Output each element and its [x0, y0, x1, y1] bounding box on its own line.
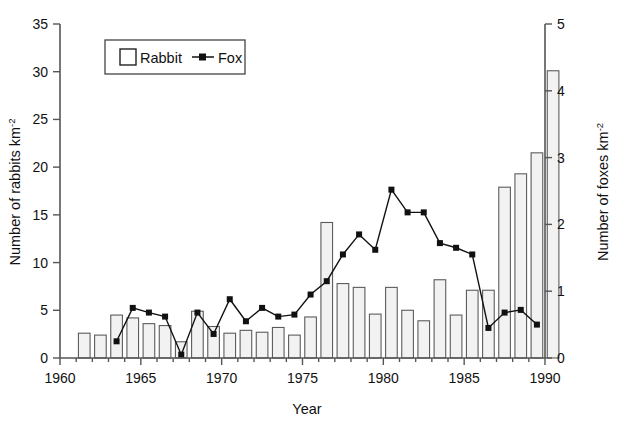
fox-data-point [275, 314, 281, 320]
fox-data-point [372, 247, 378, 253]
x-tick-label: 1975 [287, 370, 318, 386]
x-tick-label: 1985 [449, 370, 480, 386]
x-tick-label: 1980 [368, 370, 399, 386]
x-tick-label: 1990 [529, 370, 560, 386]
fox-data-point [469, 251, 475, 257]
bar [127, 318, 139, 358]
bar [143, 324, 155, 358]
bar [547, 71, 559, 358]
x-tick-label: 1960 [44, 370, 75, 386]
fox-data-point [437, 240, 443, 246]
bar [289, 335, 301, 358]
fox-data-point [502, 310, 508, 316]
bar [369, 314, 381, 358]
fox-data-point [178, 352, 184, 358]
fox-data-point [243, 318, 249, 324]
fox-data-point [114, 338, 120, 344]
fox-data-point [356, 231, 362, 237]
left-tick-label: 35 [32, 16, 48, 32]
left-y-axis: 05101520253035 [32, 16, 60, 366]
bar [434, 280, 446, 358]
bar [450, 315, 462, 358]
bar [386, 287, 398, 358]
fox-data-point [130, 305, 136, 311]
fox-data-point [388, 187, 394, 193]
fox-data-point [146, 310, 152, 316]
right-tick-label: 4 [557, 83, 565, 99]
bar [321, 222, 333, 358]
legend-rabbit-label: Rabbit [140, 50, 182, 66]
x-axis-ticks: 1960196519701975198019851990 [44, 358, 560, 386]
left-tick-label: 0 [40, 350, 48, 366]
right-tick-label: 2 [557, 216, 565, 232]
fox-data-point [518, 307, 524, 313]
chart-root: 05101520253035 012345 196019651970197519… [0, 0, 625, 429]
legend-rabbit-swatch-icon [120, 49, 136, 65]
x-axis-title: Year [292, 401, 321, 417]
bar [111, 315, 123, 358]
fox-data-point [162, 314, 168, 320]
fox-data-point [405, 209, 411, 215]
right-tick-label: 5 [557, 16, 565, 32]
left-tick-label: 5 [40, 302, 48, 318]
bar [78, 333, 90, 358]
left-tick-label: 30 [32, 64, 48, 80]
fox-data-point [194, 310, 200, 316]
left-tick-label: 25 [32, 111, 48, 127]
left-tick-label: 20 [32, 159, 48, 175]
right-tick-label: 3 [557, 150, 565, 166]
bar [466, 290, 478, 358]
bar [499, 187, 511, 358]
left-y-axis-ticks: 05101520253035 [32, 16, 60, 366]
fox-data-point [291, 312, 297, 318]
bar [224, 333, 236, 358]
bar [256, 332, 268, 358]
fox-data-point [227, 296, 233, 302]
x-axis: 1960196519701975198019851990 [44, 358, 560, 386]
bar [353, 287, 365, 358]
bar [305, 317, 317, 358]
x-tick-label: 1970 [206, 370, 237, 386]
y-axis-title: Number of rabbits km-2 [6, 118, 23, 265]
bar [515, 174, 527, 358]
fox-data-point [340, 251, 346, 257]
fox-data-point [211, 331, 217, 337]
bar [272, 327, 284, 358]
bar [95, 335, 107, 358]
left-tick-label: 10 [32, 255, 48, 271]
bar [337, 284, 349, 358]
fox-data-point [308, 292, 314, 298]
right-tick-label: 0 [557, 350, 565, 366]
bar [240, 330, 252, 358]
bar [159, 326, 171, 358]
bar [402, 310, 414, 358]
fox-data-point [324, 278, 330, 284]
fox-data-point [259, 305, 265, 311]
fox-data-point [453, 245, 459, 251]
fox-data-point [534, 322, 540, 328]
chart-legend: Rabbit Fox [105, 40, 245, 74]
fox-data-point [421, 209, 427, 215]
bar [418, 321, 430, 358]
fox-data-point [485, 325, 491, 331]
legend-fox-label: Fox [218, 50, 243, 66]
x-tick-label: 1965 [125, 370, 156, 386]
rabbit-fox-population-chart: 05101520253035 012345 196019651970197519… [0, 0, 625, 429]
left-tick-label: 15 [32, 207, 48, 223]
secondary-y-axis-title: Number of foxes km-2 [594, 123, 611, 261]
right-tick-label: 1 [557, 283, 565, 299]
